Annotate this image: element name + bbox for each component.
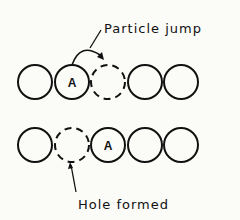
top-row bbox=[18, 65, 198, 99]
diagram-svg: A Particle jump A Hole formed bbox=[0, 0, 240, 220]
hole-arrowhead-icon bbox=[68, 162, 73, 169]
jump-arrow bbox=[72, 50, 100, 65]
particle-a-label-bottom: A bbox=[104, 139, 113, 153]
vacancy-diffusion-diagram: A Particle jump A Hole formed bbox=[0, 0, 240, 220]
particle-jump-leader bbox=[90, 30, 101, 48]
hole-formed-label: Hole formed bbox=[78, 197, 169, 212]
lattice-site-4 bbox=[128, 65, 162, 99]
lattice-site-1-bottom bbox=[18, 128, 52, 162]
hole-site bbox=[55, 128, 89, 162]
hole-formed-leader bbox=[71, 165, 76, 192]
lattice-site-4-bottom bbox=[128, 128, 162, 162]
lattice-site-5 bbox=[164, 65, 198, 99]
lattice-site-1 bbox=[18, 65, 52, 99]
particle-a-label-top: A bbox=[68, 76, 77, 90]
vacancy-site bbox=[91, 65, 125, 99]
lattice-site-5-bottom bbox=[164, 128, 198, 162]
particle-jump-label: Particle jump bbox=[104, 21, 202, 36]
